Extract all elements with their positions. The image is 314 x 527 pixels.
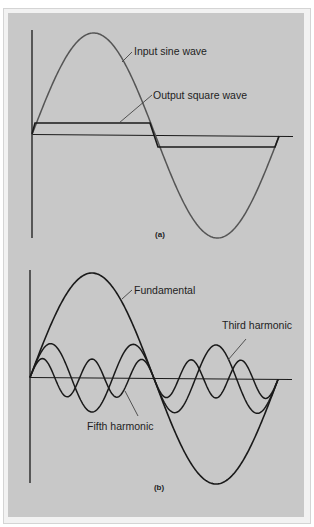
third-harmonic-leader [228,339,246,360]
caption-a: (a) [155,230,165,239]
a-horizontal-axis [32,135,293,137]
input-sine-label: Input sine wave [134,45,207,57]
output-square-label: Output square wave [153,89,247,101]
output-square-leader [119,95,152,123]
waveform-diagram: Input sine wave Output square wave (a) F… [0,0,314,527]
fundamental-label: Fundamental [134,284,195,296]
fundamental-leader [122,290,132,299]
input-sine-leader [122,52,132,62]
fifth-harmonic-leader [125,391,138,416]
panel-a: Input sine wave Output square wave (a) [32,30,293,239]
input-sine-wave [32,33,279,238]
fifth-harmonic-label: Fifth harmonic [87,420,154,432]
caption-b: (b) [154,483,165,492]
panel-b: Fundamental Third harmonic Fifth harmoni… [30,270,292,492]
fifth-harmonic-wave [30,359,278,399]
third-harmonic-label: Third harmonic [222,319,292,331]
